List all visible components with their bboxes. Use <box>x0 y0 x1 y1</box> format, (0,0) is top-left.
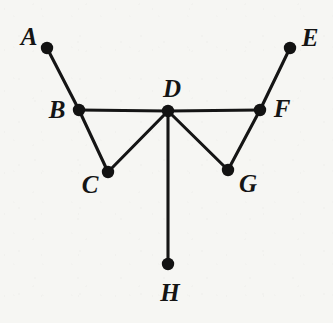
vertex-label-d: D <box>163 76 181 101</box>
graph-node-d <box>162 105 174 117</box>
graph-edge-c-d <box>108 111 168 172</box>
graph-edge-b-d <box>79 110 168 111</box>
graph-figure: ABCDEFGH <box>0 0 333 323</box>
graph-node-a <box>41 42 53 54</box>
vertex-label-g: G <box>239 171 257 196</box>
graph-node-f <box>254 104 266 116</box>
vertex-label-h: H <box>160 280 179 305</box>
vertex-label-c: C <box>82 172 99 197</box>
graph-node-g <box>222 164 234 176</box>
vertex-label-e: E <box>302 25 319 50</box>
graph-edge-b-c <box>79 110 108 172</box>
vertex-label-a: A <box>21 24 38 49</box>
graph-edge-d-g <box>168 111 228 170</box>
graph-node-c <box>102 166 114 178</box>
graph-edge-d-f <box>168 110 260 111</box>
graph-node-b <box>73 104 85 116</box>
graph-node-e <box>284 42 296 54</box>
graph-edge-g-f <box>228 110 260 170</box>
graph-node-h <box>162 258 174 270</box>
vertex-label-b: B <box>49 97 66 122</box>
vertex-label-f: F <box>274 96 291 121</box>
graph-canvas <box>0 0 333 323</box>
